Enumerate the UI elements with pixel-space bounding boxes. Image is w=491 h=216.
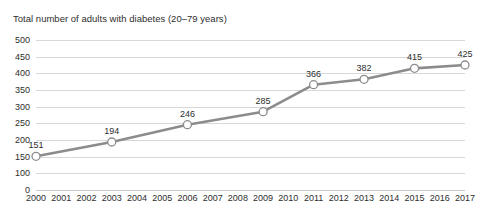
x-tick-label: 2011 (304, 193, 323, 204)
x-tick-label: 2016 (430, 193, 450, 204)
series-polyline (36, 65, 465, 156)
data-point-label: 285 (256, 96, 271, 106)
data-point-marker (32, 152, 40, 160)
plot-area: 151194246285366382415425 (36, 40, 465, 190)
y-tick-label: 100 (15, 169, 30, 178)
data-point-marker (108, 138, 116, 146)
x-tick-label: 2002 (76, 193, 96, 204)
x-tick-label: 2001 (51, 193, 71, 204)
data-point-marker (360, 75, 368, 83)
series-line (36, 40, 465, 190)
y-tick-label: 350 (15, 86, 30, 95)
x-tick-label: 2004 (127, 193, 147, 204)
gridline (36, 190, 465, 191)
data-point-label: 415 (407, 52, 422, 62)
x-tick-label: 2009 (253, 193, 273, 204)
data-point-label: 425 (457, 49, 472, 59)
data-point-label: 194 (104, 126, 119, 136)
x-tick-label: 2010 (278, 193, 298, 204)
data-point-label: 382 (357, 63, 372, 73)
diabetes-line-chart: Total number of adults with diabetes (20… (0, 0, 491, 216)
x-tick-label: 2013 (354, 193, 374, 204)
data-point-label: 151 (28, 140, 43, 150)
y-tick-label: 450 (15, 52, 30, 61)
x-tick-label: 2005 (152, 193, 172, 204)
y-axis: 5004504003503002502001501000 (0, 40, 33, 190)
x-tick-label: 2006 (177, 193, 197, 204)
x-tick-label: 2000 (26, 193, 46, 204)
data-point-marker (259, 108, 267, 116)
y-tick-label: 300 (15, 102, 30, 111)
x-tick-label: 2012 (329, 193, 349, 204)
y-tick-label: 500 (15, 36, 30, 45)
chart-title: Total number of adults with diabetes (20… (13, 13, 227, 24)
data-point-label: 366 (306, 69, 321, 79)
x-tick-label: 2015 (405, 193, 425, 204)
data-point-label: 246 (180, 109, 195, 119)
data-point-marker (411, 64, 419, 72)
x-tick-label: 2007 (203, 193, 223, 204)
y-tick-label: 150 (15, 152, 30, 161)
x-tick-label: 2003 (102, 193, 122, 204)
x-tick-label: 2017 (455, 193, 475, 204)
y-tick-label: 400 (15, 69, 30, 78)
x-tick-label: 2014 (379, 193, 399, 204)
data-point-marker (310, 81, 318, 89)
y-tick-label: 250 (15, 119, 30, 128)
x-tick-label: 2008 (228, 193, 248, 204)
x-axis: 2000200120022003200420052006200720082009… (36, 193, 465, 207)
data-point-marker (183, 121, 191, 129)
data-point-marker (461, 61, 469, 69)
